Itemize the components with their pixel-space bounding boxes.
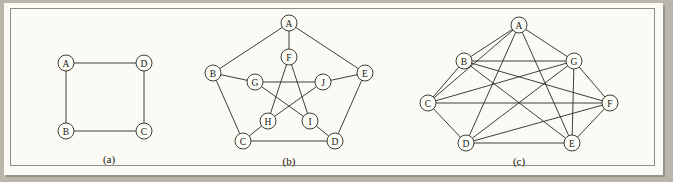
node-label: C	[141, 127, 147, 137]
node-label: D	[332, 137, 339, 147]
graph-node-f: F	[281, 49, 297, 65]
graph-node-h: H	[260, 113, 276, 129]
node-label: A	[516, 21, 523, 31]
graph-node-g: G	[247, 74, 263, 90]
figure-plate: ADBC (a) ABECDFGJHI (b) ABGCFDE (c)	[4, 3, 663, 175]
graph-edge	[270, 65, 286, 114]
graph-edge	[331, 75, 357, 81]
graph-edge	[579, 67, 605, 97]
node-label: D	[141, 59, 148, 69]
node-label: H	[265, 117, 272, 127]
graph-node-a: A	[58, 55, 74, 71]
graph-panel-b: ABECDFGJHI (b)	[189, 3, 389, 175]
node-label: I	[308, 117, 311, 127]
graph-panel-c: ABGCFDE (c)	[394, 3, 644, 175]
graph-node-g: G	[566, 53, 582, 69]
node-label: G	[252, 78, 259, 88]
graph-edge	[249, 126, 262, 136]
node-label: B	[210, 69, 216, 79]
graph-node-a: A	[281, 15, 297, 31]
caption-a: (a)	[34, 153, 184, 165]
graph-panel-a: ADBC (a)	[34, 3, 184, 175]
node-label: D	[463, 139, 470, 149]
node-label: A	[286, 19, 293, 29]
node-label: B	[63, 127, 69, 137]
graph-edge	[578, 109, 605, 137]
graph-node-c: C	[420, 95, 436, 111]
graph-node-d: D	[327, 133, 343, 149]
graph-edge	[296, 27, 359, 68]
graph-node-b: B	[58, 123, 74, 139]
graph-edge	[572, 69, 574, 135]
caption-c: (c)	[394, 155, 644, 167]
node-label: C	[425, 99, 431, 109]
graph-edge	[433, 67, 459, 97]
graph-a-canvas: ADBC	[34, 3, 184, 175]
graph-edge	[471, 29, 513, 56]
graph-node-c: C	[136, 123, 152, 139]
node-label: G	[571, 57, 578, 67]
node-label: E	[362, 69, 368, 79]
graph-edge	[262, 87, 304, 117]
node-label: J	[321, 78, 325, 88]
node-label: F	[286, 53, 291, 63]
graph-edge	[338, 80, 362, 133]
graph-node-j: J	[315, 74, 331, 90]
graph-edge	[216, 80, 240, 133]
graph-edge	[221, 75, 247, 81]
graph-node-c: C	[235, 133, 251, 149]
graph-node-f: F	[602, 95, 618, 111]
graph-edge	[291, 65, 307, 114]
graph-edge	[316, 126, 329, 136]
node-label: E	[569, 139, 575, 149]
node-label: F	[607, 99, 612, 109]
graph-edge	[434, 109, 461, 137]
graph-node-i: I	[302, 113, 318, 129]
graph-c-canvas: ABGCFDE	[394, 3, 644, 175]
graph-node-b: B	[205, 65, 221, 81]
graph-node-a: A	[511, 17, 527, 33]
caption-b: (b)	[189, 155, 389, 167]
graph-node-e: E	[357, 65, 373, 81]
node-label: B	[461, 57, 467, 67]
graph-b-canvas: ABECDFGJHI	[189, 3, 389, 175]
graph-node-d: D	[136, 55, 152, 71]
node-label: A	[63, 59, 70, 69]
graph-edge	[526, 29, 568, 56]
graph-node-b: B	[456, 53, 472, 69]
graph-edge	[275, 87, 317, 117]
graph-node-d: D	[458, 135, 474, 151]
graph-edge	[220, 27, 283, 68]
graph-node-e: E	[564, 135, 580, 151]
node-label: C	[240, 137, 246, 147]
